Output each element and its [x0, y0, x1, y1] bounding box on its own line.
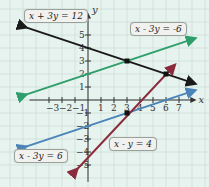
label-x-minus-y-4: x - y = 4	[109, 137, 157, 151]
line-3	[75, 68, 173, 172]
label-x-minus-3y-6: x - 3y = 6	[14, 149, 68, 163]
svg-text:−2: −2	[59, 103, 72, 113]
x-axis-label: x	[199, 94, 205, 105]
svg-text:7: 7	[176, 103, 182, 113]
svg-text:−3: −3	[76, 134, 90, 144]
svg-text:−3: −3	[46, 103, 60, 113]
svg-text:5: 5	[79, 30, 85, 40]
svg-text:−1: −1	[76, 108, 89, 118]
svg-text:3: 3	[79, 56, 85, 66]
svg-text:1: 1	[79, 82, 85, 92]
intersection-point	[125, 111, 130, 116]
label-x-plus-3y-12: x + 3y = 12	[24, 9, 88, 23]
y-axis-label: y	[91, 4, 98, 15]
intersection-point	[125, 59, 130, 64]
svg-text:6: 6	[163, 103, 169, 113]
svg-text:2: 2	[111, 103, 117, 113]
svg-text:1: 1	[98, 103, 104, 113]
svg-text:−4: −4	[76, 147, 90, 157]
label-x-minus-3y-neg6: x - 3y = -6	[130, 22, 187, 36]
intersection-point	[164, 72, 169, 77]
